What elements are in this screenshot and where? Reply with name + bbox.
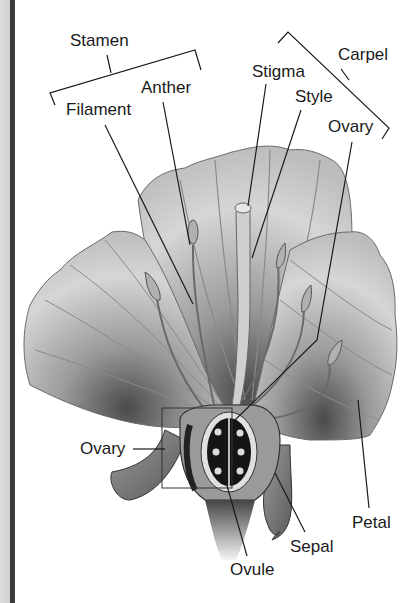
label-style: Style bbox=[295, 88, 333, 105]
label-ovary-left: Ovary bbox=[80, 440, 125, 457]
label-carpel: Carpel bbox=[338, 46, 388, 63]
label-stamen: Stamen bbox=[70, 32, 129, 49]
label-ovary-top: Ovary bbox=[328, 118, 373, 135]
label-sepal: Sepal bbox=[290, 538, 333, 555]
label-stigma: Stigma bbox=[252, 63, 305, 80]
label-petal: Petal bbox=[352, 514, 391, 531]
label-filament: Filament bbox=[66, 101, 131, 118]
ovary bbox=[180, 405, 280, 500]
receptacle bbox=[205, 500, 255, 560]
label-ovule: Ovule bbox=[230, 561, 274, 578]
label-anther: Anther bbox=[141, 79, 191, 96]
